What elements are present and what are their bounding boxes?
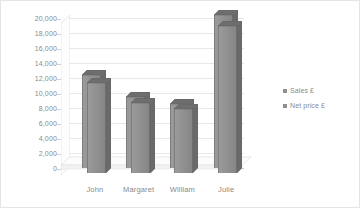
y-tick-label: 16,000 [35,45,57,52]
y-tick-label: 10,000 [35,90,57,97]
legend-label: Net price £ [290,102,325,109]
bar-side-face [150,98,155,174]
x-tick-label: Julie [218,185,234,194]
bar-front-face [218,26,237,173]
y-tick-label: 18,000 [35,30,57,37]
chart-legend: Sales £Net price £ [283,87,359,117]
bar-side-face [193,104,198,173]
bar-front-face [87,83,106,173]
legend-entry[interactable]: Net price £ [283,102,359,109]
y-tick-label: 20,000 [35,15,57,22]
bar-net-price-margaret [131,103,150,174]
bar-front-face [174,109,193,173]
bar-side-face [106,78,111,173]
y-tick-label: 12,000 [35,75,57,82]
y-tick-label: 8,000 [39,105,57,112]
bar-net-price-william [174,109,193,173]
legend-entry[interactable]: Sales £ [283,87,359,94]
bar-net-price-john [87,83,106,173]
chart-container: 02,0004,0006,0008,00010,00012,00014,0001… [0,0,360,208]
bar-net-price-julie [218,26,237,173]
legend-swatch-icon [283,89,287,93]
y-tick-label: 6,000 [39,120,57,127]
y-tick-label: 14,000 [35,60,57,67]
bar-side-face [237,21,242,173]
legend-swatch-icon [283,104,287,108]
y-tick-label: 2,000 [39,150,57,157]
y-tick-label: 0 [53,165,57,172]
bar-front-face [131,103,150,174]
y-axis: 02,0004,0006,0008,00010,00012,00014,0001… [1,1,61,208]
x-tick-label: William [170,185,195,194]
legend-label: Sales £ [290,87,314,94]
x-tick-label: Margaret [123,185,154,194]
x-tick-label: John [86,185,103,194]
y-tick-label: 4,000 [39,135,57,142]
x-axis: JohnMargaretWilliamJulie [63,185,253,205]
